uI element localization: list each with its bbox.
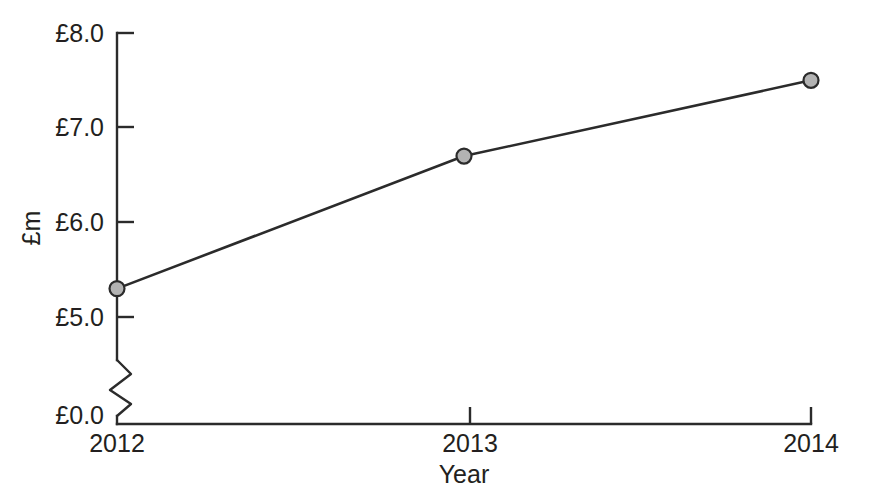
line-chart-figure: £8.0 £7.0 £6.0 £5.0 £0.0 2012 2013 2014 …: [0, 0, 869, 490]
data-point-2013: [457, 149, 472, 164]
chart-background: [0, 0, 869, 490]
y-tick-label-7: £7.0: [55, 113, 104, 141]
y-axis-title: £m: [17, 211, 45, 246]
data-point-2012: [110, 281, 125, 296]
y-tick-label-0: £0.0: [55, 401, 104, 429]
chart-canvas: £8.0 £7.0 £6.0 £5.0 £0.0 2012 2013 2014 …: [0, 0, 869, 490]
x-tick-label-2013: 2013: [442, 429, 498, 457]
data-point-2014: [804, 73, 819, 88]
x-tick-label-2012: 2012: [89, 429, 145, 457]
x-axis-title: Year: [439, 460, 490, 488]
y-tick-label-6: £6.0: [55, 208, 104, 236]
y-tick-label-5: £5.0: [55, 303, 104, 331]
x-tick-label-2014: 2014: [783, 429, 839, 457]
y-tick-label-8: £8.0: [55, 19, 104, 47]
